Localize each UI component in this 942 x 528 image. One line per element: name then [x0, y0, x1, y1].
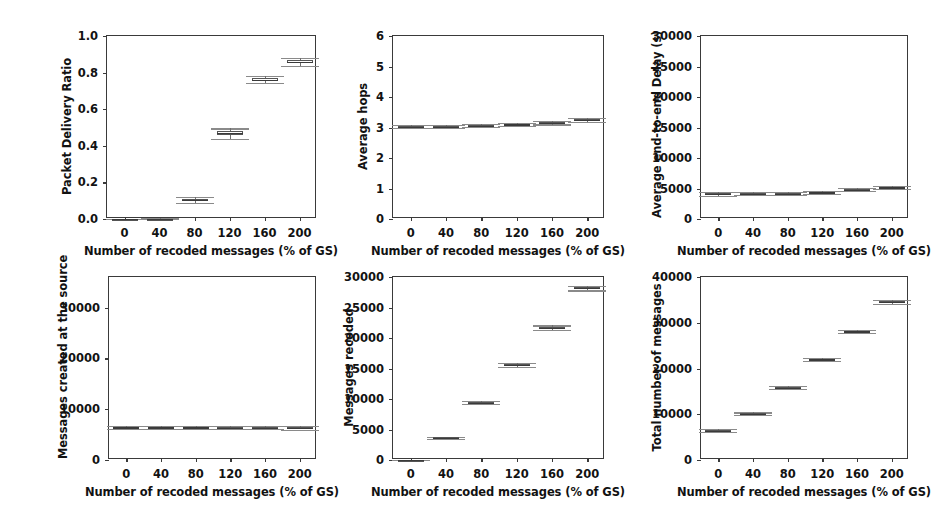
whisker-lower: [587, 289, 588, 291]
whisker-cap: [533, 124, 571, 125]
x-tick-label: 120: [810, 226, 834, 240]
y-tick-label: 0: [684, 212, 692, 226]
x-axis-label-average-end-to-end-delay: Number of recoded messages (% of GS): [640, 244, 942, 258]
whisker-lower: [446, 438, 447, 439]
y-tick-mark: [697, 414, 701, 415]
whisker-upper: [411, 125, 412, 126]
median-line: [574, 288, 600, 289]
whisker-cap: [769, 389, 807, 390]
y-axis-label-average-end-to-end-delay: Average end-to-end Delay (s): [650, 35, 664, 218]
box-iqr: [775, 387, 801, 389]
box-iqr: [433, 437, 459, 439]
y-tick-label: 15000: [652, 121, 692, 135]
whisker-cap: [211, 139, 249, 140]
whisker-cap: [803, 194, 841, 195]
box-plot-packet-delivery-ratio-40: [107, 36, 315, 217]
median-line: [113, 427, 139, 428]
x-tick-label: 0: [407, 226, 415, 240]
box-iqr: [252, 427, 278, 429]
box-iqr: [217, 131, 243, 135]
whisker-lower: [517, 125, 518, 126]
y-tick-mark: [389, 128, 393, 129]
box-iqr: [740, 193, 766, 195]
y-tick-label: 10000: [60, 402, 100, 416]
whisker-cap: [281, 58, 319, 59]
box-iqr: [539, 327, 565, 329]
y-tick-mark: [697, 158, 701, 159]
whisker-cap: [838, 333, 876, 334]
box-iqr: [775, 193, 801, 195]
box-plot-messages-created-at-the-source-120: [109, 277, 315, 458]
whisker-cap: [427, 128, 465, 129]
box-plot-total-number-of-messages-0: [701, 277, 907, 458]
whisker-lower: [265, 428, 266, 429]
x-tick-label: 80: [780, 226, 796, 240]
whisker-upper: [196, 426, 197, 427]
y-axis-label-total-number-of-messages: Total number of messages: [650, 276, 664, 459]
plot-area-average-end-to-end-delay: 0500010000150002000025000300000408012016…: [700, 35, 908, 218]
whisker-cap: [176, 203, 214, 204]
plot-area-packet-delivery-ratio: 0.00.20.40.60.81.004080120160200: [106, 35, 316, 218]
whisker-lower: [481, 126, 482, 127]
box-iqr: [113, 427, 139, 429]
box-plot-average-end-to-end-delay-80: [701, 36, 907, 217]
box-iqr: [287, 60, 313, 63]
y-tick-mark: [105, 460, 109, 461]
x-tick-mark: [822, 458, 823, 462]
whisker-cap: [568, 122, 606, 123]
y-tick-mark: [389, 338, 393, 339]
box-iqr: [148, 427, 174, 429]
y-tick-label: 20000: [60, 351, 100, 365]
x-tick-mark: [892, 458, 893, 462]
whisker-cap: [211, 128, 249, 129]
whisker-cap: [392, 460, 430, 461]
whisker-cap: [568, 286, 606, 287]
y-tick-label: 20000: [652, 362, 692, 376]
y-tick-label: 40000: [652, 270, 692, 284]
y-axis-label-average-hops: Average hops: [356, 35, 370, 218]
box-iqr: [844, 331, 870, 333]
box-plot-total-number-of-messages-160: [701, 277, 907, 458]
x-tick-label: 0: [122, 467, 130, 481]
whisker-upper: [822, 358, 823, 359]
whisker-upper: [446, 437, 447, 438]
median-line: [809, 192, 835, 193]
y-tick-label: 30000: [652, 316, 692, 330]
whisker-lower: [822, 360, 823, 361]
median-line: [504, 124, 530, 125]
whisker-cap: [498, 126, 536, 127]
box-iqr: [468, 402, 494, 404]
subplot-total-number-of-messages: 01000020000300004000004080120160200Total…: [0, 0, 942, 528]
y-tick-mark: [389, 460, 393, 461]
y-tick-mark: [697, 189, 701, 190]
median-line: [879, 187, 905, 188]
whisker-cap: [392, 460, 430, 461]
y-tick-mark: [103, 109, 107, 110]
y-tick-mark: [105, 409, 109, 410]
whisker-cap: [838, 191, 876, 192]
y-tick-label: 10000: [652, 151, 692, 165]
whisker-lower: [753, 194, 754, 195]
median-line: [183, 427, 209, 428]
median-line: [775, 194, 801, 195]
x-tick-mark: [552, 458, 553, 462]
whisker-cap: [281, 430, 319, 431]
x-tick-label: 160: [540, 467, 564, 481]
median-line: [287, 62, 313, 63]
x-tick-label: 40: [745, 467, 761, 481]
whisker-upper: [587, 286, 588, 288]
y-tick-label: 0.4: [78, 139, 98, 153]
x-axis-label-total-number-of-messages: Number of recoded messages (% of GS): [640, 485, 942, 499]
whisker-lower: [718, 194, 719, 195]
whisker-cap: [211, 426, 249, 427]
y-tick-label: 25000: [652, 60, 692, 74]
box-plot-messages-recoded-0: [393, 277, 603, 458]
x-tick-mark: [196, 458, 197, 462]
whisker-upper: [718, 192, 719, 193]
box-plot-average-hops-200: [393, 36, 603, 217]
whisker-upper: [195, 197, 196, 198]
whisker-upper: [753, 192, 754, 193]
whisker-lower: [857, 332, 858, 333]
box-plot-messages-recoded-160: [393, 277, 603, 458]
y-tick-label: 1.0: [78, 29, 98, 43]
